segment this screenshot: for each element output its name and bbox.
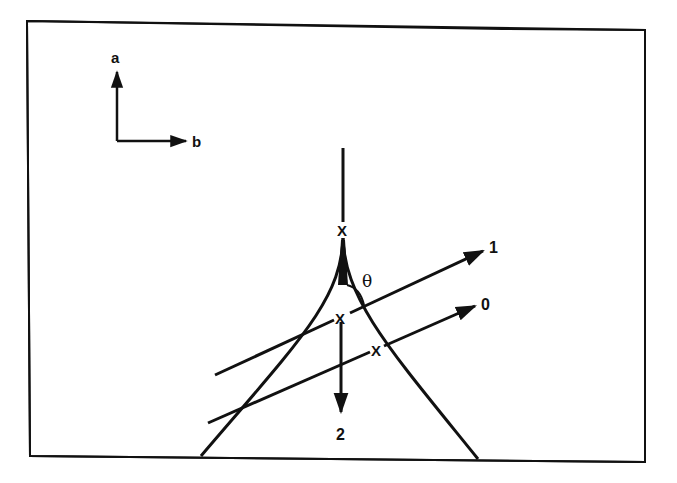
beam-0-line bbox=[208, 352, 370, 423]
marker-middle: X bbox=[335, 310, 345, 327]
beam-1-line bbox=[215, 320, 334, 375]
frame-border bbox=[27, 21, 645, 462]
marker-top: X bbox=[337, 222, 347, 239]
axis-b-label: b bbox=[192, 133, 201, 150]
diagram-canvas: a b θ 2 1 0 X X X bbox=[0, 0, 677, 483]
beam-1-label: 1 bbox=[489, 239, 498, 256]
angle-label: θ bbox=[362, 271, 372, 291]
left-cusp-curve bbox=[201, 238, 343, 456]
diagram-frame bbox=[27, 21, 645, 462]
axis-a-label: a bbox=[111, 49, 120, 66]
beam-0-arrow bbox=[384, 306, 475, 346]
marker-bottom: X bbox=[371, 342, 381, 359]
coordinate-axes: a b bbox=[111, 49, 201, 150]
beam-0-label: 0 bbox=[481, 296, 490, 313]
cusp-fill bbox=[338, 240, 348, 285]
beam-2-label: 2 bbox=[336, 426, 345, 443]
